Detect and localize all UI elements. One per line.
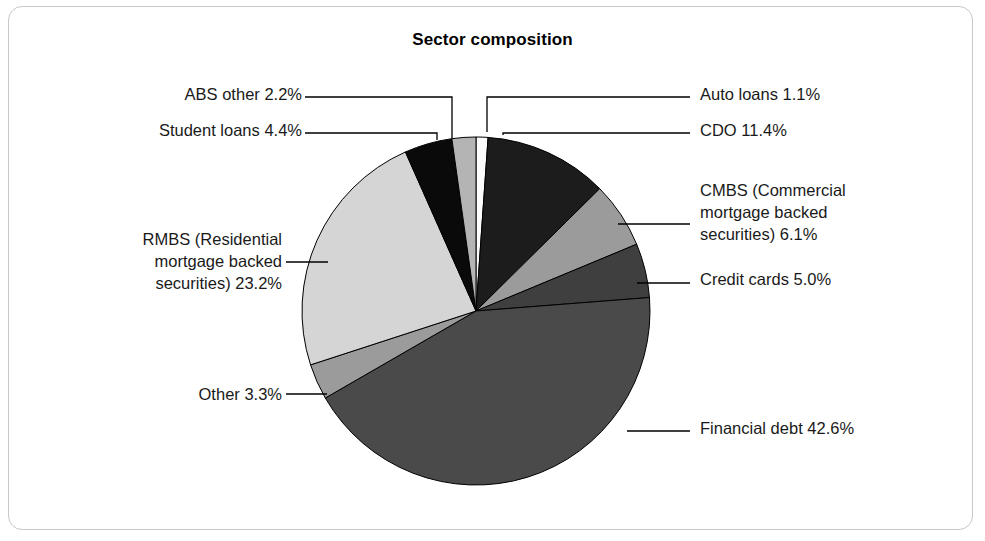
leader-line-abs-other [305,97,452,138]
slice-label-student-loans: Student loans 4.4% [62,119,302,141]
slice-label-rmbs: RMBS (Residential mortgage backed securi… [60,228,282,294]
leader-line-auto-loans [487,97,690,132]
slice-label-financial-debt: Financial debt 42.6% [700,417,960,439]
slice-label-credit-cards: Credit cards 5.0% [700,268,960,290]
chart-figure: Sector composition ABS other 2.2% Studen… [0,0,985,541]
pie-slice-group [302,137,650,485]
leader-line-student-loans-2 [305,133,437,140]
slice-label-cmbs: CMBS (Commercial mortgage backed securit… [700,179,950,245]
leader-line-cdo [503,133,690,135]
slice-label-abs-other: ABS other 2.2% [92,83,302,105]
slice-label-cdo: CDO 11.4% [700,119,960,141]
slice-label-auto-loans: Auto loans 1.1% [700,83,960,105]
slice-label-other: Other 3.3% [90,383,282,405]
